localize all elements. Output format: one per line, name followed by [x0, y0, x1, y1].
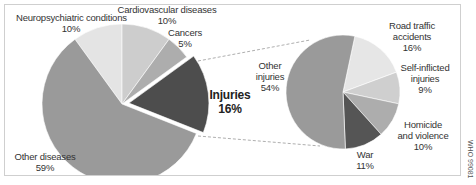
label-road-traffic: Road trafficaccidents16% [382, 20, 442, 53]
label-cardiovascular: Cardiovascular diseases10% [112, 4, 222, 26]
connector-bottom [198, 136, 320, 146]
label-neuropsychiatric: Neuropsychiatric conditions10% [16, 12, 126, 34]
label-homicide: Homicideand violence10% [388, 119, 458, 152]
label-self-inflicted: Self-inflictedinjuries9% [393, 62, 457, 95]
connector-top [198, 40, 310, 61]
label-other-injuries: Otherinjuries54% [248, 60, 292, 93]
figure-code: WHO 99081 [467, 140, 474, 179]
label-war: War11% [350, 149, 380, 171]
label-cancers: Cancers5% [160, 27, 210, 49]
label-other-diseases: Other diseases59% [10, 151, 80, 173]
